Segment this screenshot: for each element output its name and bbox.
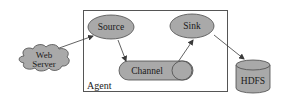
edge-source-channel [118,40,126,61]
hdfs-node: HDFS [236,60,270,93]
hdfs-label: HDFS [241,76,265,86]
source-node: Source [88,15,134,39]
flume-diagram: Agent Web Server Source Sink Channel HDF… [0,0,293,100]
sink-label: Sink [183,21,201,31]
sink-node: Sink [170,14,214,38]
channel-node: Channel [119,61,193,80]
channel-end-cap [172,61,192,80]
web-server-label-2: Server [32,59,56,69]
agent-label: Agent [87,80,112,91]
edge-sink-hdfs [214,35,244,59]
channel-label: Channel [131,66,163,76]
source-label: Source [98,22,124,32]
edges [48,35,244,62]
web-server-node: Web Server [19,45,69,71]
edge-channel-sink [178,40,193,62]
